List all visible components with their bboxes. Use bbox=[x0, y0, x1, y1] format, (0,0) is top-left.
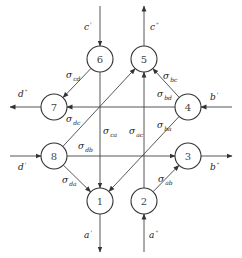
node-3: 3 bbox=[175, 143, 201, 169]
flow-letter: c bbox=[84, 22, 89, 32]
prime-mark: ' bbox=[90, 21, 92, 28]
flow-label-a-out: a' bbox=[84, 229, 92, 240]
node-number: 4 bbox=[185, 102, 191, 113]
prime-mark: ' bbox=[25, 161, 27, 168]
edge-label-dc: σdc bbox=[66, 114, 81, 126]
subscript: ac bbox=[136, 131, 144, 138]
prime-mark: " bbox=[25, 88, 28, 95]
flow-letter: b bbox=[210, 162, 216, 172]
sigma-symbol: σ bbox=[78, 141, 85, 151]
flow-label-b-out: b" bbox=[210, 161, 220, 172]
nodes: 12345678 bbox=[41, 46, 201, 214]
edge-label-cd: σcd bbox=[66, 70, 81, 82]
edge-label-db: σdb bbox=[78, 141, 93, 153]
edge-label-ac: σac bbox=[129, 126, 144, 138]
edge-label-ab: σab bbox=[158, 174, 173, 186]
edge-label-bc: σbc bbox=[163, 71, 178, 83]
node-5: 5 bbox=[131, 46, 157, 72]
edge-label-bd: σbd bbox=[157, 89, 172, 101]
intersection-flow-diagram: 12345678 σcdσcaσacσabσbcσbdσbaσdcσdbσdac… bbox=[0, 0, 242, 258]
subscript: da bbox=[69, 180, 77, 187]
node-1: 1 bbox=[87, 188, 113, 214]
subscript: cd bbox=[73, 75, 80, 82]
flow-label-d-in: d' bbox=[18, 161, 27, 172]
prime-mark: " bbox=[217, 161, 220, 168]
node-7: 7 bbox=[41, 94, 67, 120]
node-6: 6 bbox=[87, 46, 113, 72]
sigma-symbol: σ bbox=[66, 70, 73, 80]
subscript: bc bbox=[170, 76, 178, 83]
flow-letter: b bbox=[210, 92, 216, 102]
node-number: 3 bbox=[185, 151, 191, 162]
sigma-symbol: σ bbox=[157, 89, 164, 99]
node-number: 8 bbox=[51, 151, 57, 162]
subscript: db bbox=[85, 146, 93, 153]
prime-mark: ' bbox=[217, 91, 219, 98]
flow-label-c-out: c" bbox=[150, 21, 159, 32]
flow-label-c-in: c' bbox=[84, 21, 92, 32]
subscript: ba bbox=[164, 125, 172, 132]
subscript: dc bbox=[73, 119, 81, 126]
prime-mark: " bbox=[155, 229, 158, 236]
node-number: 7 bbox=[51, 102, 57, 113]
flow-label-b-in: b' bbox=[210, 91, 219, 102]
subscript: ca bbox=[110, 131, 117, 138]
node-number: 6 bbox=[97, 54, 103, 65]
subscript: ab bbox=[165, 179, 173, 186]
sigma-symbol: σ bbox=[163, 71, 170, 81]
edge-label-ca: σca bbox=[103, 126, 118, 138]
labels: σcdσcaσacσabσbcσbdσbaσdcσdbσdac'c"b'b"a"… bbox=[18, 21, 220, 240]
flow-letter: a bbox=[84, 230, 89, 240]
edge-label-ba: σba bbox=[157, 120, 172, 132]
flow-letter: c bbox=[150, 22, 155, 32]
flow-letter: d bbox=[18, 89, 24, 99]
prime-mark: ' bbox=[90, 229, 92, 236]
subscript: bd bbox=[164, 94, 172, 101]
node-number: 5 bbox=[141, 54, 147, 65]
node-number: 1 bbox=[97, 196, 103, 207]
node-2: 2 bbox=[131, 188, 157, 214]
sigma-symbol: σ bbox=[66, 114, 73, 124]
sigma-symbol: σ bbox=[157, 120, 164, 130]
sigma-symbol: σ bbox=[62, 175, 69, 185]
flow-letter: d bbox=[18, 162, 24, 172]
edges bbox=[10, 6, 232, 252]
prime-mark: " bbox=[156, 21, 159, 28]
flow-letter: a bbox=[149, 230, 154, 240]
sigma-symbol: σ bbox=[103, 126, 110, 136]
sigma-symbol: σ bbox=[129, 126, 136, 136]
node-8: 8 bbox=[41, 143, 67, 169]
node-4: 4 bbox=[175, 94, 201, 120]
node-number: 2 bbox=[141, 196, 147, 207]
sigma-symbol: σ bbox=[158, 174, 165, 184]
flow-label-d-out: d" bbox=[18, 88, 28, 99]
flow-label-a-in: a" bbox=[149, 229, 158, 240]
